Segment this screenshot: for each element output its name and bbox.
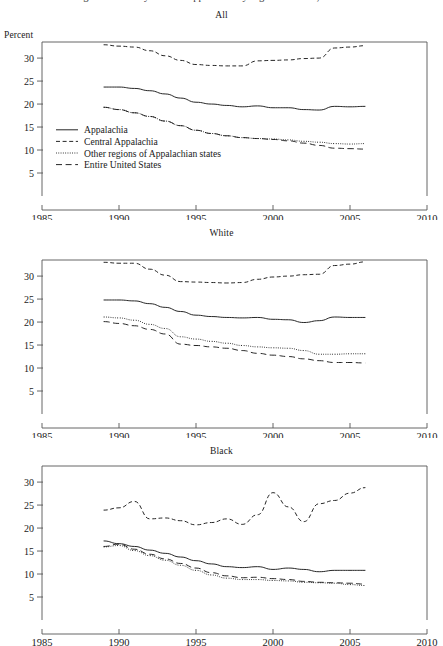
y-tick-label: 25 — [24, 76, 34, 87]
y-tick-label: 10 — [24, 363, 34, 374]
chart-panel-all: All Percent 5101520253019851990199520002… — [0, 10, 443, 220]
plot-frame — [42, 466, 427, 620]
series-line-appalachia — [104, 300, 366, 323]
chart-svg-black: 51015202530198519901995200020052010 — [0, 446, 443, 646]
x-tick-label: 1995 — [186, 213, 207, 220]
y-tick-label: 20 — [24, 317, 34, 328]
x-axis-line — [42, 629, 427, 634]
clipped-page-header: Figure 1. Poverty rates in Appalachia by… — [0, 0, 443, 5]
x-tick-label: 2010 — [417, 637, 438, 646]
x-axis-line — [42, 205, 427, 210]
x-tick-label: 2005 — [340, 431, 361, 438]
x-tick-label: 1995 — [186, 431, 207, 438]
series-line-entire-united-states — [104, 544, 366, 584]
y-tick-label: 25 — [24, 294, 34, 305]
x-tick-label: 1990 — [109, 213, 130, 220]
x-tick-label: 1985 — [32, 431, 53, 438]
series-line-entire-united-states — [104, 322, 366, 363]
x-tick-label: 1985 — [32, 637, 53, 646]
chart-svg-white: 51015202530198519901995200020052010 — [0, 228, 443, 438]
y-tick-label: 20 — [24, 99, 34, 110]
series-line-other-regions-of-appalachian-states — [104, 546, 366, 586]
figure-page: Figure 1. Poverty rates in Appalachia by… — [0, 0, 443, 646]
y-tick-label: 10 — [24, 569, 34, 580]
legend-label: Entire United States — [84, 159, 162, 170]
y-axis-unit-label-all: Percent — [4, 30, 33, 40]
series-line-other-regions-of-appalachian-states — [104, 317, 366, 354]
y-tick-label: 30 — [24, 271, 34, 282]
legend-label: Appalachia — [84, 124, 128, 135]
x-tick-label: 1990 — [109, 637, 130, 646]
legend-label: Central Appalachia — [84, 136, 159, 147]
x-tick-label: 2000 — [263, 431, 284, 438]
y-tick-label: 5 — [29, 386, 34, 397]
y-tick-label: 5 — [29, 168, 34, 179]
x-tick-label: 2000 — [263, 637, 284, 646]
series-line-central-appalachia — [104, 488, 366, 525]
x-tick-label: 1985 — [32, 213, 53, 220]
y-tick-label: 15 — [24, 122, 34, 133]
x-tick-label: 2000 — [263, 213, 284, 220]
x-axis-line — [42, 423, 427, 428]
series-line-central-appalachia — [104, 45, 366, 66]
legend-label: Other regions of Appalachian states — [84, 148, 221, 159]
chart-title-black: Black — [0, 446, 443, 456]
x-tick-label: 2005 — [340, 637, 361, 646]
x-tick-label: 1990 — [109, 431, 130, 438]
y-tick-label: 15 — [24, 340, 34, 351]
chart-title-all: All — [0, 10, 443, 20]
x-tick-label: 2005 — [340, 213, 361, 220]
chart-svg-all: 51015202530198519901995200020052010Appal… — [0, 10, 443, 220]
series-line-appalachia — [104, 541, 366, 572]
chart-panel-white: White 5101520253019851990199520002005201… — [0, 228, 443, 438]
chart-panel-black: Black 5101520253019851990199520002005201… — [0, 446, 443, 646]
x-tick-label: 2010 — [417, 213, 438, 220]
x-tick-label: 2010 — [417, 431, 438, 438]
plot-frame — [42, 42, 427, 196]
chart-title-white: White — [0, 228, 443, 238]
series-line-appalachia — [104, 87, 366, 110]
y-tick-label: 30 — [24, 53, 34, 64]
y-tick-label: 30 — [24, 477, 34, 488]
y-tick-label: 10 — [24, 145, 34, 156]
y-tick-label: 5 — [29, 592, 34, 603]
y-tick-label: 20 — [24, 523, 34, 534]
x-tick-label: 1995 — [186, 637, 207, 646]
y-tick-label: 15 — [24, 546, 34, 557]
series-line-central-appalachia — [104, 262, 366, 283]
y-tick-label: 25 — [24, 500, 34, 511]
